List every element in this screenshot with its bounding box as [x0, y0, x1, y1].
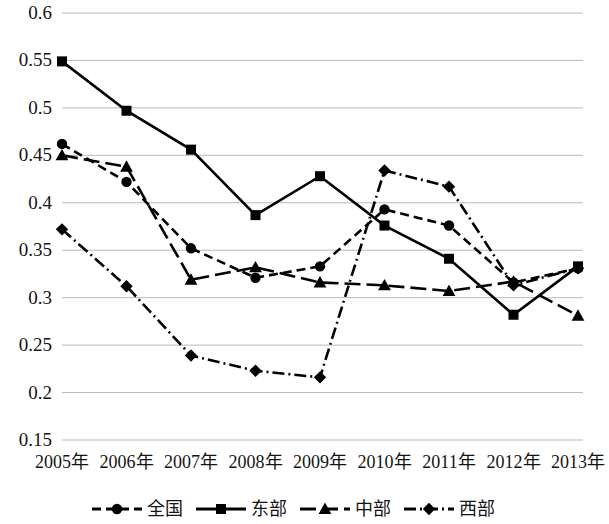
legend-key-quanguo	[91, 501, 143, 517]
legend-key-xibu	[403, 501, 455, 517]
y-tick-label: 0.55	[19, 50, 52, 69]
x-tick-label: 2010年	[353, 452, 417, 472]
x-tick-label: 2007年	[159, 452, 223, 472]
data-point-marker-diamond	[249, 365, 261, 377]
data-point-marker-triangle	[120, 160, 133, 171]
legend-label: 中部	[355, 500, 391, 518]
data-point-marker-diamond	[314, 371, 326, 383]
data-point-marker-circle	[250, 273, 260, 283]
series-layer	[56, 56, 585, 383]
legend-key-dongbu	[195, 501, 247, 517]
data-point-marker-circle	[379, 204, 389, 214]
x-tick-label: 2009年	[288, 452, 352, 472]
legend-label: 全国	[147, 500, 183, 518]
data-point-marker-diamond	[185, 349, 197, 361]
data-point-marker-square	[251, 210, 261, 220]
data-point-marker-square	[216, 504, 226, 514]
y-tick-label: 0.15	[19, 430, 52, 449]
data-point-marker-square	[509, 310, 519, 320]
y-tick-label: 0.35	[19, 240, 52, 259]
data-point-marker-diamond	[422, 503, 434, 515]
x-tick-label: 2013年	[546, 452, 609, 472]
data-point-marker-circle	[186, 243, 196, 253]
legend-entry-中部[interactable]: 中部	[299, 500, 391, 518]
legend-entry-全国[interactable]: 全国	[91, 500, 183, 518]
data-point-marker-circle	[315, 261, 325, 271]
legend-label: 西部	[459, 500, 495, 518]
data-point-marker-circle	[111, 504, 121, 514]
data-point-marker-triangle	[572, 309, 585, 320]
data-point-marker-triangle	[249, 261, 262, 272]
y-tick-label: 0.6	[28, 3, 52, 22]
y-tick-label: 0.25	[19, 335, 52, 354]
data-point-marker-diamond	[378, 164, 390, 176]
x-tick-label: 2011年	[417, 452, 481, 472]
x-tick-label: 2006年	[95, 452, 159, 472]
data-point-marker-circle	[57, 139, 67, 149]
data-point-marker-square	[444, 254, 454, 264]
data-point-marker-triangle	[56, 149, 69, 160]
legend-key-zhongbu	[299, 501, 351, 517]
data-point-marker-square	[315, 171, 325, 181]
y-tick-label: 0.4	[28, 193, 52, 212]
y-tick-label: 0.2	[28, 383, 52, 402]
data-point-marker-square	[122, 106, 132, 116]
legend-entry-东部[interactable]: 东部	[195, 500, 287, 518]
x-tick-label: 2005年	[30, 452, 94, 472]
chart-legend: 全国东部中部西部	[0, 495, 585, 523]
series-line	[62, 171, 578, 378]
y-tick-label: 0.5	[28, 98, 52, 117]
legend-label: 东部	[251, 500, 287, 518]
data-point-marker-square	[186, 145, 196, 155]
legend-entry-西部[interactable]: 西部	[403, 500, 495, 518]
data-point-marker-circle	[121, 177, 131, 187]
y-tick-label: 0.45	[19, 145, 52, 164]
x-tick-label: 2012年	[482, 452, 546, 472]
data-point-marker-square	[380, 221, 390, 231]
data-point-marker-circle	[444, 220, 454, 230]
y-tick-label: 0.3	[28, 288, 52, 307]
data-point-marker-square	[57, 56, 67, 66]
series-3	[56, 164, 584, 383]
series-0	[57, 139, 583, 288]
x-tick-label: 2008年	[224, 452, 288, 472]
